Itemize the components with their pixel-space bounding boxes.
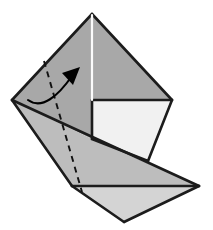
origami-figure-canvas: Origami fold step diagram A partially fo…: [0, 0, 213, 230]
origami-diagram: Origami fold step diagram A partially fo…: [0, 0, 213, 230]
